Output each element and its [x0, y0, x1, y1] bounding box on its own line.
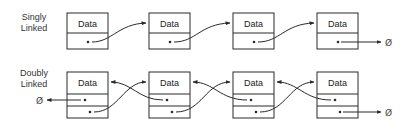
next-arrow-icon [176, 82, 230, 112]
next-pointer-dot [253, 41, 256, 44]
node-data-label: Data [244, 78, 263, 88]
doubly-label-line2: Linked [21, 79, 48, 89]
next-arrow-icon [260, 82, 314, 112]
null-symbol-icon: Ø [385, 108, 392, 118]
doubly-node-4: Data [317, 72, 358, 118]
singly-node-3: Data [233, 13, 274, 49]
next-pointer-dot [169, 41, 172, 44]
linked-list-diagram: Singly Linked Data Data Data Data [0, 0, 414, 134]
singly-linked-section: Singly Linked Data Data Data Data [21, 12, 392, 49]
node-data-label: Data [160, 78, 179, 88]
singly-node-4: Data [317, 13, 358, 49]
doubly-label-line1: Doubly [20, 68, 49, 78]
prev-pointer-dot [250, 99, 253, 102]
prev-pointer-dot [166, 99, 169, 102]
prev-pointer-dot [84, 99, 87, 102]
next-pointer-dot [171, 111, 174, 114]
node-data-label: Data [78, 19, 97, 29]
node-data-label: Data [244, 19, 263, 29]
null-symbol-icon: Ø [385, 38, 392, 48]
singly-node-1: Data [67, 13, 108, 49]
singly-node-2: Data [149, 13, 190, 49]
prev-arrow-icon [111, 82, 163, 100]
singly-label-line1: Singly [22, 12, 47, 22]
next-pointer-dot [89, 111, 92, 114]
next-pointer-dot [255, 111, 258, 114]
null-symbol-icon: Ø [36, 96, 43, 106]
next-pointer-dot [87, 41, 90, 44]
singly-label-line2: Linked [21, 23, 48, 33]
next-arrow-icon [94, 82, 146, 112]
prev-arrow-icon [277, 82, 331, 100]
doubly-linked-section: Doubly Linked Data Data Data [20, 68, 392, 118]
node-data-label: Data [328, 78, 347, 88]
next-pointer-dot [337, 41, 340, 44]
node-data-label: Data [328, 19, 347, 29]
prev-arrow-icon [193, 82, 247, 100]
node-data-label: Data [160, 19, 179, 29]
node-data-label: Data [78, 78, 97, 88]
prev-pointer-dot [334, 99, 337, 102]
next-pointer-dot [339, 111, 342, 114]
